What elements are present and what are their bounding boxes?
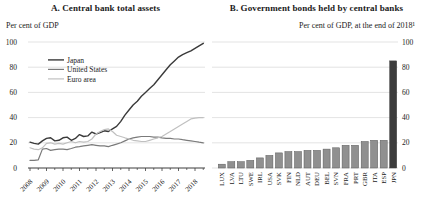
x-category-label: BEL — [323, 172, 330, 185]
bar-fin — [285, 152, 292, 168]
x-category-label: GBR — [361, 172, 368, 186]
bar-esp — [380, 140, 387, 168]
y-tick-label: 40 — [402, 113, 410, 122]
x-category-label: SVK — [275, 172, 282, 186]
bar-jpn — [390, 61, 397, 168]
x-tick-label: 2013 — [101, 177, 117, 193]
x-tick-label: 2014 — [118, 177, 134, 193]
series-line-euro-area — [30, 118, 203, 150]
x-tick-label: 2018 — [184, 177, 200, 193]
x-category-label: IRL — [256, 172, 263, 183]
bar-deu — [314, 150, 321, 168]
y-tick-label: 100 — [402, 38, 414, 47]
bar-bel — [323, 149, 330, 168]
bar-svk — [275, 153, 282, 168]
x-tick-label: 2017 — [167, 177, 183, 193]
y-tick-label: 60 — [402, 88, 410, 97]
panel-a-line-chart: 0204060801002008200920102011201220132014… — [0, 0, 211, 200]
x-category-label: FIN — [285, 172, 292, 183]
x-category-label: NLD — [294, 172, 301, 186]
x-category-label: USA — [266, 172, 273, 186]
bar-svn — [333, 148, 340, 168]
x-category-label: SVN — [332, 172, 339, 186]
y-tick-label: 0 — [402, 164, 406, 173]
bar-ita — [371, 140, 378, 168]
legend-label: United States — [67, 65, 107, 74]
bar-ltu — [237, 162, 244, 168]
y-tick-label: 20 — [10, 138, 18, 147]
x-category-label: LUX — [218, 172, 225, 186]
x-tick-label: 2015 — [134, 177, 150, 193]
x-category-label: AUT — [304, 171, 311, 186]
x-category-label: PRT — [352, 171, 359, 184]
panel-a: A. Central bank total assets Per cent of… — [0, 0, 211, 200]
y-tick-label: 0 — [13, 164, 17, 173]
y-tick-label: 80 — [402, 63, 410, 72]
bar-irl — [256, 158, 263, 168]
x-category-label: JPN — [390, 172, 397, 183]
x-category-label: FRA — [342, 172, 349, 185]
bar-swe — [247, 160, 254, 168]
bar-prt — [352, 145, 359, 168]
x-tick-label: 2008 — [19, 177, 35, 193]
bar-nld — [295, 152, 302, 168]
y-tick-label: 20 — [402, 138, 410, 147]
bar-aut — [304, 150, 311, 168]
legend-label: Euro area — [67, 75, 97, 84]
x-tick-label: 2009 — [35, 177, 51, 193]
x-category-label: ESP — [380, 172, 387, 184]
bar-lux — [218, 164, 225, 168]
x-tick-label: 2016 — [151, 177, 167, 193]
x-tick-label: 2010 — [52, 177, 68, 193]
bar-gbr — [361, 142, 368, 169]
x-category-label: ITA — [371, 172, 378, 183]
x-tick-label: 2011 — [69, 177, 85, 193]
bar-usa — [266, 155, 273, 168]
x-category-label: DEU — [313, 172, 320, 186]
bar-lva — [228, 162, 235, 168]
y-tick-label: 100 — [6, 38, 18, 47]
legend-label: Japan — [67, 56, 84, 65]
x-category-label: LVA — [228, 172, 235, 185]
bar-fra — [342, 145, 349, 168]
x-tick-label: 2012 — [85, 177, 101, 193]
x-category-label: SWE — [247, 172, 254, 186]
y-tick-label: 80 — [10, 63, 18, 72]
series-line-japan — [30, 43, 203, 144]
y-tick-label: 60 — [10, 88, 18, 97]
panel-b-bar-chart: 020406080100LUXLVALTUSWEIRLUSASVKFINNLDA… — [211, 0, 422, 200]
x-category-label: LTU — [237, 172, 244, 185]
panel-b: B. Government bonds held by central bank… — [211, 0, 422, 200]
figure: A. Central bank total assets Per cent of… — [0, 0, 422, 200]
y-tick-label: 40 — [10, 113, 18, 122]
